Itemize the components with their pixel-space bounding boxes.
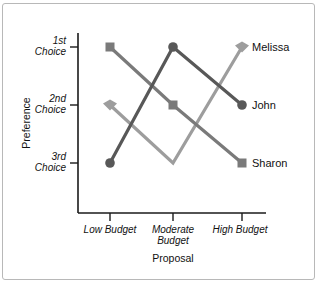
y-tick-label-2nd-line1: 2nd (48, 93, 66, 104)
y-tick-label-3rd-line1: 3rd (52, 151, 67, 162)
chart-figure: 1st Choice 2nd Choice 3rd Choice Low Bud… (0, 0, 319, 285)
marker-melissa-high-budget (235, 42, 249, 53)
y-axis-title: Preference (20, 97, 32, 149)
x-axis-title: Proposal (152, 252, 193, 264)
x-tick-label-moderate-line1: Moderate (152, 224, 195, 235)
marker-sharon-low-budget (106, 43, 115, 52)
y-tick-label-1st-line1: 1st (53, 35, 68, 46)
marker-john-moderate-budget (168, 42, 178, 52)
series-label-john: John (252, 99, 276, 111)
marker-john-low-budget (105, 158, 115, 168)
y-tick-label-2nd-line2: Choice (35, 104, 67, 115)
x-tick-label-low-budget: Low Budget (84, 224, 138, 235)
series-label-sharon: Sharon (252, 157, 287, 169)
series-label-melissa: Melissa (252, 41, 290, 53)
y-tick-label-1st-line2: Choice (35, 46, 67, 57)
marker-sharon-high-budget (238, 159, 247, 168)
marker-sharon-moderate-budget (169, 101, 178, 110)
y-tick-label-3rd-line2: Choice (35, 162, 67, 173)
x-tick-label-moderate-line2: Budget (157, 235, 190, 246)
x-tick-label-high-budget: High Budget (212, 224, 268, 235)
line-chart-plot: 1st Choice 2nd Choice 3rd Choice Low Bud… (0, 0, 319, 285)
series-sharon (106, 43, 247, 168)
marker-john-high-budget (237, 100, 247, 110)
